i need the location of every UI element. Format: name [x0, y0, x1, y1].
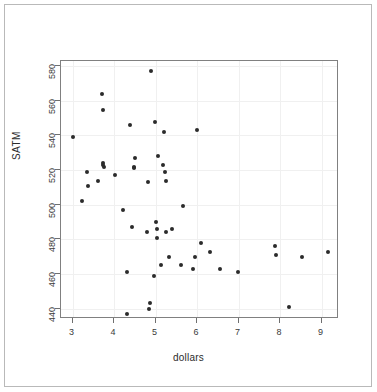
- y-tick-label: 460: [47, 272, 57, 300]
- gridline-vertical: [280, 61, 281, 317]
- x-tick-label: 7: [223, 327, 253, 337]
- scatter-plot-screenshot: 440460480500520540560580 3456789 SATM do…: [0, 0, 377, 392]
- x-axis-title: dollars: [0, 352, 377, 363]
- gridline-horizontal: [61, 274, 337, 275]
- x-tick-label: 4: [98, 327, 128, 337]
- data-point: [326, 250, 330, 254]
- data-point: [125, 312, 129, 316]
- data-point: [102, 165, 106, 169]
- data-point: [86, 184, 90, 188]
- data-point: [274, 253, 278, 257]
- x-tick-mark: [196, 318, 197, 323]
- data-point: [145, 230, 149, 234]
- x-tick-label: 8: [264, 327, 294, 337]
- data-point: [96, 179, 100, 183]
- x-tick-mark: [238, 318, 239, 323]
- y-tick-label: 440: [47, 307, 57, 335]
- data-point: [71, 135, 75, 139]
- gridline-vertical: [239, 61, 240, 317]
- x-tick-mark: [72, 318, 73, 323]
- data-point: [164, 230, 168, 234]
- data-point: [147, 307, 151, 311]
- gridline-vertical: [322, 61, 323, 317]
- data-point: [121, 208, 125, 212]
- data-point: [163, 170, 167, 174]
- gridline-horizontal: [61, 309, 337, 310]
- data-point: [199, 241, 203, 245]
- x-tick-mark: [321, 318, 322, 323]
- x-tick-mark: [113, 318, 114, 323]
- y-tick-label: 580: [47, 64, 57, 92]
- x-tick-label: 3: [57, 327, 87, 337]
- data-point: [208, 250, 212, 254]
- data-point: [149, 69, 153, 73]
- data-point: [161, 163, 165, 167]
- x-tick-mark: [279, 318, 280, 323]
- data-point: [162, 130, 166, 134]
- gridline-vertical: [114, 61, 115, 317]
- data-point: [154, 220, 158, 224]
- data-point: [148, 301, 152, 305]
- gridline-vertical: [197, 61, 198, 317]
- data-point: [155, 227, 159, 231]
- data-point: [130, 225, 134, 229]
- data-point: [155, 236, 159, 240]
- data-point: [125, 270, 129, 274]
- y-tick-label: 560: [47, 99, 57, 127]
- gridline-vertical: [156, 61, 157, 317]
- gridline-horizontal: [61, 101, 337, 102]
- y-tick-label: 520: [47, 168, 57, 196]
- data-point: [80, 199, 84, 203]
- data-point: [128, 123, 132, 127]
- gridline-vertical: [73, 61, 74, 317]
- data-point: [153, 120, 157, 124]
- data-point: [164, 179, 168, 183]
- data-point: [101, 108, 105, 112]
- data-point: [195, 128, 199, 132]
- data-point: [133, 156, 137, 160]
- gridline-horizontal: [61, 239, 337, 240]
- y-tick-label: 540: [47, 133, 57, 161]
- y-axis-title: SATM: [11, 131, 22, 160]
- gridline-horizontal: [61, 205, 337, 206]
- gridline-horizontal: [61, 66, 337, 67]
- data-point: [100, 92, 104, 96]
- data-point: [146, 180, 150, 184]
- gridline-horizontal: [61, 170, 337, 171]
- data-point: [152, 274, 156, 278]
- data-point: [170, 227, 174, 231]
- x-tick-label: 5: [140, 327, 170, 337]
- data-point: [179, 263, 183, 267]
- gridline-horizontal: [61, 135, 337, 136]
- data-point: [159, 263, 163, 267]
- data-point: [300, 255, 304, 259]
- data-point: [113, 173, 117, 177]
- data-point: [273, 244, 277, 248]
- data-point: [167, 255, 171, 259]
- data-point: [156, 154, 160, 158]
- data-point: [181, 204, 185, 208]
- data-point: [191, 267, 195, 271]
- x-tick-label: 9: [306, 327, 336, 337]
- y-tick-label: 480: [47, 237, 57, 265]
- plot-region: 440460480500520540560580 3456789 SATM do…: [0, 0, 377, 392]
- data-point: [85, 170, 89, 174]
- plot-panel: [60, 60, 338, 318]
- x-tick-mark: [155, 318, 156, 323]
- data-point: [218, 267, 222, 271]
- x-tick-label: 6: [181, 327, 211, 337]
- y-tick-label: 500: [47, 203, 57, 231]
